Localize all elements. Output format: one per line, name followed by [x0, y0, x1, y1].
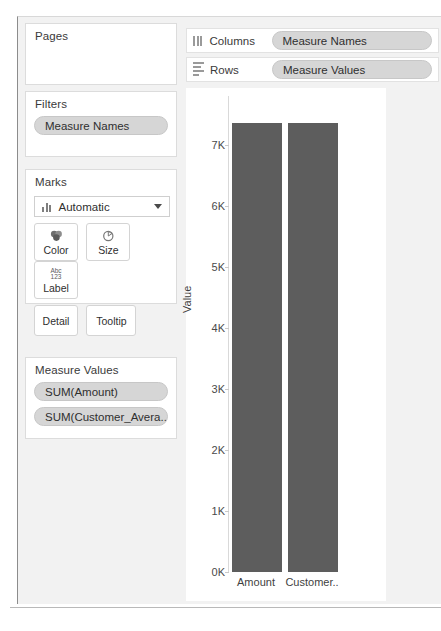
rows-pill-measure-values[interactable]: Measure Values — [272, 60, 432, 79]
columns-shelf[interactable]: Columns Measure Names — [186, 28, 439, 53]
columns-icon — [193, 36, 204, 46]
y-axis-tick-mark — [225, 511, 229, 512]
marks-size-button[interactable]: Size — [86, 223, 130, 261]
mark-type-value: Automatic — [59, 201, 155, 213]
rows-icon — [193, 62, 204, 78]
y-axis-tick-label: 3K — [212, 383, 225, 395]
measure-value-pill-customer-average[interactable]: SUM(Customer_Avera.. — [34, 407, 168, 426]
y-axis-tick-label: 5K — [212, 261, 225, 273]
y-axis-tick-label: 1K — [212, 505, 225, 517]
marks-label-label: Label — [43, 282, 69, 294]
y-axis-tick-mark — [225, 450, 229, 451]
columns-pill-measure-names[interactable]: Measure Names — [272, 31, 433, 50]
mark-type-dropdown[interactable]: Automatic — [34, 196, 170, 217]
y-axis-tick-mark — [225, 267, 229, 268]
y-axis-tick-mark — [225, 328, 229, 329]
chart-canvas: Value 0K1K2K3K4K5K6K7K AmountCustomer.. — [186, 88, 386, 601]
pages-card-title: Pages — [26, 24, 176, 42]
y-axis-tick-label: 6K — [212, 200, 225, 212]
marks-buttons-row-2: Detail Tooltip — [34, 305, 176, 336]
y-axis-tick-label: 0K — [212, 566, 225, 578]
rows-shelf-label: Rows — [210, 64, 272, 76]
color-palette-icon — [49, 229, 64, 244]
bottom-divider — [10, 607, 441, 608]
x-axis-labels: AmountCustomer.. — [228, 576, 340, 588]
y-axis-tick-label: 4K — [212, 322, 225, 334]
y-axis-tick-mark — [225, 389, 229, 390]
bar-customer[interactable] — [288, 123, 338, 572]
filter-pill-measure-names[interactable]: Measure Names — [34, 116, 168, 135]
x-axis-label: Customer.. — [284, 576, 340, 588]
marks-color-label: Color — [43, 244, 68, 256]
filters-card-title: Filters — [26, 92, 176, 110]
bar-amount[interactable] — [232, 123, 282, 572]
marks-detail-label: Detail — [43, 315, 70, 327]
abc-123-icon: Abc 123 — [50, 267, 61, 282]
y-axis-tick-mark — [225, 206, 229, 207]
measure-value-pill-amount[interactable]: SUM(Amount) — [34, 382, 168, 401]
marks-card: Marks Automatic Color — [25, 169, 177, 304]
chevron-down-icon[interactable] — [154, 204, 162, 209]
pages-card[interactable]: Pages — [25, 23, 177, 85]
y-axis-tick-mark — [225, 572, 229, 573]
chart-area: Value 0K1K2K3K4K5K6K7K AmountCustomer.. — [186, 88, 439, 601]
tableau-worksheet: Pages Filters Measure Names Marks Automa… — [0, 0, 441, 631]
marks-label-button[interactable]: Abc 123 Label — [34, 261, 78, 299]
marks-detail-button[interactable]: Detail — [34, 305, 78, 336]
y-axis-title: Value — [181, 286, 193, 313]
y-axis-tick-label: 7K — [212, 139, 225, 151]
y-axis-tick-mark — [225, 145, 229, 146]
columns-shelf-label: Columns — [210, 35, 272, 47]
marks-buttons: Color Size Abc 123 — [34, 223, 176, 336]
marks-size-label: Size — [98, 244, 118, 256]
sidebar: Pages Filters Measure Names Marks Automa… — [18, 17, 184, 603]
measure-values-card-title: Measure Values — [26, 358, 176, 376]
marks-color-button[interactable]: Color — [34, 223, 78, 261]
plot-area[interactable]: 0K1K2K3K4K5K6K7K — [228, 96, 341, 572]
marks-tooltip-label: Tooltip — [96, 315, 126, 327]
filters-card[interactable]: Filters Measure Names — [25, 91, 177, 157]
size-circle-icon — [101, 229, 116, 244]
rows-shelf[interactable]: Rows Measure Values — [186, 57, 439, 82]
bar-chart-icon — [42, 202, 53, 212]
marks-tooltip-button[interactable]: Tooltip — [86, 305, 136, 336]
y-axis-tick-label: 2K — [212, 444, 225, 456]
abc-123-icon-bottom: 123 — [51, 273, 62, 280]
measure-values-card: Measure Values SUM(Amount) SUM(Customer_… — [25, 357, 177, 439]
marks-card-title: Marks — [26, 170, 176, 188]
x-axis-label: Amount — [228, 576, 284, 588]
